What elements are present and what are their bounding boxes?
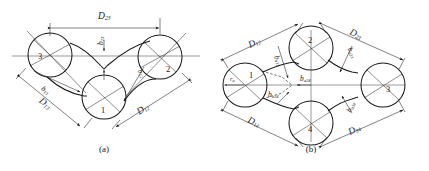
pulley-1-label-b: 1 bbox=[249, 70, 253, 80]
caption-a: (a) bbox=[99, 144, 109, 154]
belt-span-1-2-a bbox=[124, 79, 156, 101]
dim-D13-line-a bbox=[20, 77, 80, 126]
diagram-svg: 3 2 1 D23 b23 D13 b13 bbox=[0, 0, 429, 171]
pulley-3-axis-a bbox=[27, 31, 86, 93]
belt-span-2-3-b bbox=[328, 60, 358, 73]
dim-ba23-label-b: ba23 bbox=[346, 46, 359, 60]
dim-D23-label-b: D23 bbox=[347, 26, 364, 41]
dim-D13-label-a: D13 bbox=[36, 95, 53, 112]
dim-D13-ext-a bbox=[16, 68, 26, 79]
pulley-2-label-a: 2 bbox=[166, 64, 170, 74]
dim-D12-label-b: D12 bbox=[246, 35, 263, 50]
dim-D23-line-b bbox=[322, 24, 403, 60]
caption-b: (b) bbox=[306, 144, 317, 154]
dim-D34-line-b bbox=[322, 110, 403, 146]
radius-marker-label-b: ra bbox=[230, 76, 235, 83]
dim-D34-label-b: D34 bbox=[346, 122, 363, 137]
dim-D12-ext-b bbox=[222, 58, 228, 68]
dim-b13-label-a: b13 bbox=[40, 84, 53, 97]
dim-D14-label-b: D14 bbox=[245, 114, 262, 129]
pulley-2-spoke-2-a bbox=[140, 46, 180, 68]
dim-ba34-label-b: ba34 bbox=[344, 99, 357, 113]
pulley-4-label-b: 4 bbox=[308, 124, 313, 134]
dim-D12-line-a bbox=[116, 81, 188, 127]
dim-D13-ext2-a bbox=[84, 118, 92, 128]
dim-D12-label-a: D12 bbox=[134, 101, 151, 117]
panel-a: 3 2 1 D23 b23 D13 b13 bbox=[12, 11, 200, 154]
dim-ba14-label-b: ba14 bbox=[268, 90, 279, 99]
pulley-3-spoke-2-b bbox=[364, 74, 402, 98]
pulley-3-label-a: 3 bbox=[38, 51, 42, 61]
dim-D12-ext2-a bbox=[112, 120, 120, 129]
dim-D14-line-b bbox=[224, 111, 298, 146]
figure-container: 3 2 1 D23 b23 D13 b13 bbox=[0, 0, 429, 171]
dim-b23-label-a: b23 bbox=[96, 36, 105, 45]
dim-D14-ext-b bbox=[222, 101, 228, 112]
pulley-1-label-a: 1 bbox=[101, 105, 105, 115]
pulley-2-label-b: 2 bbox=[308, 35, 312, 45]
dim-D12-line-b bbox=[224, 24, 298, 59]
pulley-3-label-b: 3 bbox=[386, 84, 390, 94]
pulley-2-axis-a bbox=[126, 33, 186, 96]
dim-ba24-label-b: ba24 bbox=[300, 74, 311, 83]
dim-D23-label-a: D23 bbox=[97, 11, 111, 21]
panel-b: 1 ra 2 3 4 D12 D23 bbox=[222, 23, 405, 154]
belt-span-1-2-b bbox=[263, 62, 299, 72]
